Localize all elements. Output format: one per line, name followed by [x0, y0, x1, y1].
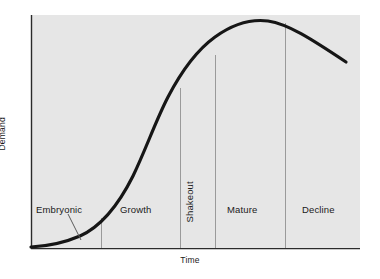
stage-label-mature: Mature: [227, 205, 257, 215]
stage-label-growth: Growth: [120, 205, 152, 215]
industry-life-cycle-figure: Embryonic Growth Shakeout Mature Decline…: [0, 0, 380, 279]
x-axis-label: Time: [0, 256, 380, 265]
life-cycle-chart: [0, 0, 380, 279]
stage-label-shakeout: Shakeout: [185, 181, 195, 222]
stage-label-embryonic: Embryonic: [36, 205, 82, 215]
stage-label-decline: Decline: [302, 205, 335, 215]
y-axis-label: Demand: [0, 117, 6, 150]
